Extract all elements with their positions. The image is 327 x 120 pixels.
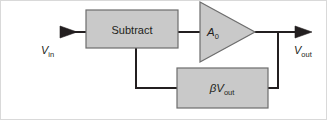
terminal-label-input: Vin [41, 44, 54, 59]
arrowhead-right-icon-input [60, 26, 77, 38]
block-diagram-figure: Subtract A0 βVout Vin Vout [0, 0, 327, 120]
block-feedback[interactable]: βVout [177, 68, 268, 108]
block-amplifier[interactable]: A0 [200, 2, 255, 62]
terminal-label-output-subscript: out [301, 50, 312, 59]
terminal-label-output: Vout [294, 44, 313, 59]
terminal-label-input-subscript: in [48, 50, 54, 59]
wire-feedback-to-subtract [136, 48, 177, 88]
arrowhead-right-icon-output [295, 26, 312, 38]
block-amplifier-label-subscript: 0 [215, 32, 219, 41]
wire-output-tap-to-feedback [268, 32, 278, 88]
block-amplifier-label-main: A [206, 26, 215, 38]
block-subtract[interactable]: Subtract [86, 10, 178, 48]
diagram-canvas: Subtract A0 βVout Vin Vout [0, 0, 327, 120]
block-subtract-label: Subtract [112, 24, 153, 36]
block-feedback-label-subscript: out [224, 88, 235, 97]
